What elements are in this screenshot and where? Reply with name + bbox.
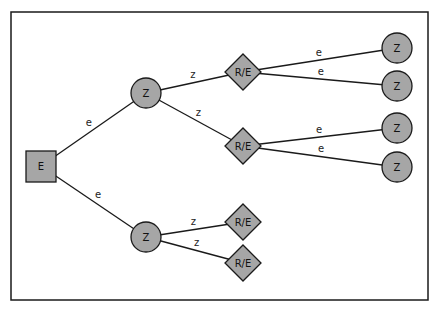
node-label: Z xyxy=(394,43,401,54)
node-label: R/E xyxy=(235,141,252,152)
edge-label: z xyxy=(196,107,201,118)
edge-label: z xyxy=(194,237,199,248)
node-label: R/E xyxy=(235,67,252,78)
edge-label: z xyxy=(191,216,196,227)
node-label: Z xyxy=(394,123,401,134)
node-label: R/E xyxy=(235,258,252,269)
node-label: Z xyxy=(143,232,150,243)
node-z3: Z xyxy=(382,33,412,63)
decision-tree-diagram: eezzzzeeee EZZR/ER/ER/ER/EZZZZ xyxy=(0,0,435,310)
node-label: E xyxy=(38,161,44,172)
edge-label: z xyxy=(190,69,195,80)
node-z4: Z xyxy=(382,71,412,101)
node-label: Z xyxy=(394,162,401,173)
edge-label: e xyxy=(316,47,322,58)
edge-label: e xyxy=(318,66,324,77)
edge-label: e xyxy=(95,189,101,200)
node-label: Z xyxy=(143,88,150,99)
edge-label: e xyxy=(318,143,324,154)
node-label: Z xyxy=(394,81,401,92)
node-label: R/E xyxy=(235,217,252,228)
edge-label: e xyxy=(86,117,92,128)
node-z6: Z xyxy=(382,152,412,182)
node-root: E xyxy=(26,151,56,182)
node-z2: Z xyxy=(131,222,161,252)
node-z5: Z xyxy=(382,113,412,143)
node-z1: Z xyxy=(131,78,161,108)
edge-label: e xyxy=(316,124,322,135)
